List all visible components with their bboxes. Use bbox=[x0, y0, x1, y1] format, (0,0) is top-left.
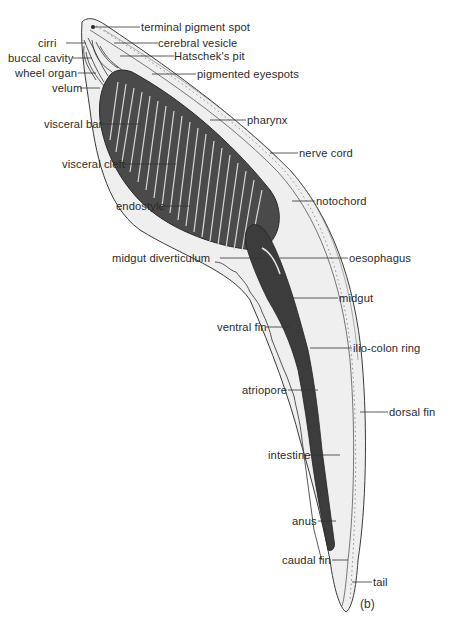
figure-caption: (b) bbox=[360, 597, 375, 611]
label-visceral-bar: visceral bar bbox=[44, 118, 102, 130]
label-caudal-fin: caudal fin bbox=[282, 554, 331, 566]
label-terminal-pigment-spot: terminal pigment spot bbox=[141, 21, 250, 33]
label-visceral-cleft: visceral cleft bbox=[62, 158, 125, 170]
label-pigmented-eyespots: pigmented eyespots bbox=[197, 68, 299, 80]
label-anus: anus bbox=[292, 515, 317, 527]
label-wheel-organ: wheel organ bbox=[15, 67, 77, 79]
label-midgut: midgut bbox=[339, 292, 373, 304]
label-buccal-cavity: buccal cavity bbox=[8, 52, 73, 64]
label-velum: velum bbox=[52, 82, 82, 94]
label-cerebral-vesicle: cerebral vesicle bbox=[158, 37, 237, 49]
label-atriopore: atriopore bbox=[242, 384, 287, 396]
label-nerve-cord: nerve cord bbox=[299, 147, 353, 159]
label-cirri: cirri bbox=[38, 37, 57, 49]
label-endostyle: endostyle bbox=[116, 200, 165, 212]
label-hatscheks-pit: Hatschek's pit bbox=[174, 50, 245, 62]
label-ilio-colon-ring: ilio-colon ring bbox=[353, 342, 420, 354]
label-tail: tail bbox=[373, 576, 388, 588]
label-dorsal-fin: dorsal fin bbox=[389, 406, 435, 418]
label-intestine: intestine bbox=[268, 449, 311, 461]
label-midgut-diverticulum: midgut diverticulum bbox=[112, 252, 210, 264]
label-oesophagus: oesophagus bbox=[349, 252, 411, 264]
label-ventral-fin: ventral fin bbox=[217, 321, 267, 333]
label-notochord: notochord bbox=[316, 195, 367, 207]
label-pharynx: pharynx bbox=[247, 114, 288, 126]
